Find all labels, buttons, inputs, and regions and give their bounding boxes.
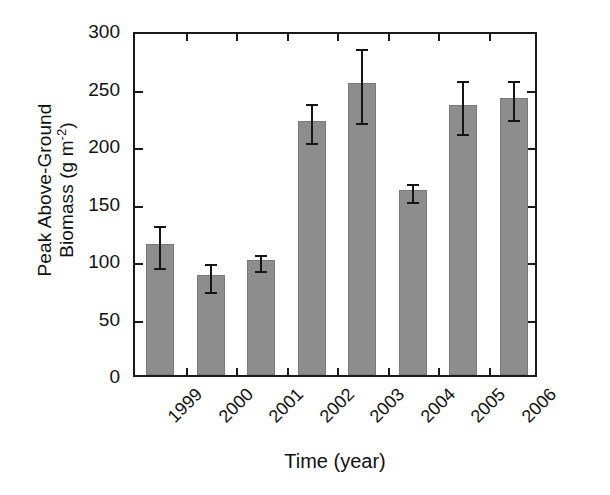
error-bar-line — [311, 105, 313, 144]
error-bar-cap-upper — [407, 184, 419, 186]
error-bar-line — [159, 227, 161, 268]
error-bar-cap-upper — [205, 264, 217, 266]
y-axis-tick-label: 300 — [74, 22, 120, 41]
error-bar-line — [361, 50, 363, 124]
error-bar-line — [210, 265, 212, 293]
error-bar-cap-upper — [457, 81, 469, 83]
x-axis-title: Time (year) — [133, 450, 537, 473]
bar-chart-figure: Peak Above-Ground Biomass (g m-2) 050100… — [0, 0, 610, 495]
y-axis-tick-label: 0 — [74, 367, 120, 386]
x-axis-tick-label: 2006 — [517, 384, 560, 427]
x-axis-tick-label: 2002 — [315, 384, 358, 427]
error-bar-cap-lower — [356, 123, 368, 125]
y-axis-tick-label: 200 — [74, 137, 120, 156]
error-bar-line — [462, 82, 464, 135]
y-axis-tick-label: 50 — [74, 310, 120, 329]
plot-area — [133, 32, 537, 377]
error-bar-cap-lower — [508, 120, 520, 122]
x-axis-tick-labels: 19992000200120022003200420052006 — [133, 380, 537, 440]
error-bar-cap-upper — [306, 104, 318, 106]
error-bar-line — [513, 82, 515, 121]
x-axis-tick-label: 2004 — [416, 384, 459, 427]
y-axis-title-line-1: Peak Above-Ground — [34, 10, 58, 370]
x-axis-tick-label: 2005 — [467, 384, 510, 427]
error-bar-cap-lower — [457, 134, 469, 136]
error-bar-cap-lower — [407, 202, 419, 204]
error-bar-cap-lower — [205, 292, 217, 294]
error-bar-cap-upper — [508, 81, 520, 83]
error-bar-line — [412, 185, 414, 203]
y-axis-tick-label: 100 — [74, 252, 120, 271]
x-axis-tick-label: 2001 — [265, 384, 308, 427]
error-bar-cap-upper — [154, 226, 166, 228]
error-bar-cap-lower — [255, 271, 267, 273]
error-bar-cap-upper — [255, 255, 267, 257]
y-axis-tick-labels: 050100150200250300 — [60, 0, 120, 400]
x-axis-tick-label: 2003 — [366, 384, 409, 427]
error-bars-layer — [135, 34, 535, 375]
x-axis-tick-label: 1999 — [164, 384, 207, 427]
y-axis-tick-label: 250 — [74, 80, 120, 99]
error-bar-cap-lower — [306, 143, 318, 145]
y-axis-tick-label: 150 — [74, 195, 120, 214]
error-bar-line — [260, 256, 262, 272]
error-bar-cap-upper — [356, 49, 368, 51]
x-axis-tick-label: 2000 — [214, 384, 257, 427]
error-bar-cap-lower — [154, 268, 166, 270]
